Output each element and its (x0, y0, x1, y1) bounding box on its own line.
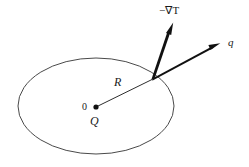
charge-label: Q (90, 115, 99, 127)
physics-diagram: −∇T q R 0 Q (0, 0, 249, 167)
radius-label: R (114, 76, 121, 88)
flux-vector-label: q (228, 37, 234, 48)
origin-label: 0 (82, 102, 87, 112)
diagram-canvas (0, 0, 249, 167)
origin-dot (93, 104, 98, 109)
radius-line (96, 79, 153, 107)
gradient-vector-label: −∇T (159, 5, 180, 16)
